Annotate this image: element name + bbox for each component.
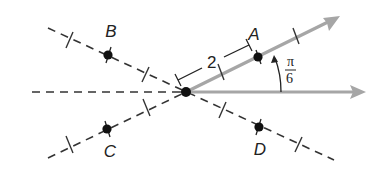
tick-mark (66, 32, 73, 48)
point-a (253, 50, 262, 64)
tick-mark (219, 102, 226, 118)
tick-mark (66, 136, 73, 153)
angle-arrowhead-icon (271, 55, 278, 63)
origin-point (181, 87, 191, 97)
dimension-line (224, 45, 249, 57)
angle-numerator: π (287, 54, 294, 69)
angle-denominator: 6 (286, 71, 293, 86)
polar-diagram: 2 π 6 A B C D (0, 0, 382, 172)
dashed-line-b-d (48, 28, 334, 160)
label-a: A (247, 25, 259, 44)
tick-mark (143, 99, 150, 116)
label-d: D (254, 140, 266, 159)
point-b (103, 47, 112, 63)
point-c (102, 121, 111, 137)
tick-mark (142, 67, 149, 82)
point-d (254, 119, 263, 135)
dimension-line (178, 68, 202, 80)
tick-mark (295, 137, 302, 152)
label-c: C (104, 142, 117, 161)
angle-arc (275, 58, 281, 92)
dashed-line-c (48, 92, 186, 158)
label-b: B (105, 22, 116, 41)
distance-label: 2 (207, 53, 216, 72)
